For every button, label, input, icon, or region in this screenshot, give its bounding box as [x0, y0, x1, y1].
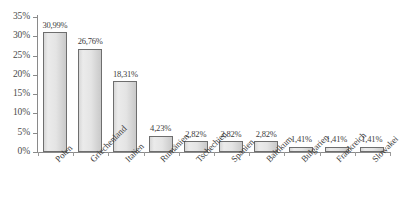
x-axis-tick — [320, 152, 321, 156]
bar-chart: 0%5%10%15%20%25%30%35% 30,99%26,76%18,31… — [0, 0, 402, 218]
y-axis-label: 0% — [0, 147, 30, 157]
plot-area: 30,99%26,76%18,31%4,23%2,82%2,82%2,82%1,… — [38, 17, 390, 152]
y-axis-label: 15% — [0, 89, 30, 99]
x-axis-tick — [390, 152, 391, 156]
bar[interactable] — [78, 49, 102, 152]
bar-group: 1,41% — [320, 17, 354, 152]
bar[interactable] — [43, 32, 67, 152]
y-axis-label: 10% — [0, 108, 30, 118]
y-axis-label: 35% — [0, 12, 30, 22]
bar-value-label: 18,31% — [102, 70, 148, 79]
bar-group: 26,76% — [73, 17, 107, 152]
y-axis-label: 25% — [0, 51, 30, 61]
x-axis-tick — [73, 152, 74, 156]
x-axis-tick — [38, 152, 39, 156]
y-axis-label: 20% — [0, 70, 30, 80]
bar-value-label: 26,76% — [67, 37, 113, 46]
x-axis-tick — [144, 152, 145, 156]
y-axis-label: 30% — [0, 31, 30, 41]
y-axis-label: 5% — [0, 128, 30, 138]
x-axis-tick — [249, 152, 250, 156]
x-axis-tick — [108, 152, 109, 156]
x-axis-tick — [355, 152, 356, 156]
bar-group: 1,41% — [284, 17, 318, 152]
x-axis-tick — [214, 152, 215, 156]
x-axis-tick — [179, 152, 180, 156]
bar-group: 2,82% — [249, 17, 283, 152]
x-axis-tick — [284, 152, 285, 156]
bar-value-label: 30,99% — [32, 21, 78, 30]
